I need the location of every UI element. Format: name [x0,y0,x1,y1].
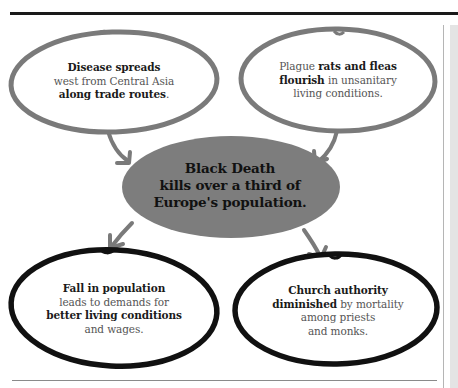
node-fall-line3: better living conditions [46,309,182,321]
center-line3: Europe's population. [130,194,330,211]
node-rats-fleas-line2-tail: in unsanitary [325,74,397,86]
node-church-authority: Church authority diminished by mortality… [256,284,420,338]
node-rats-fleas-line1-bold: rats and fleas [318,60,397,72]
node-fall-line2: leads to demands for [24,296,204,310]
node-disease-spreads-line1: Disease spreads [68,61,161,73]
node-disease-spreads-line3: along trade routes [59,88,166,100]
center-line2: kills over a third of [130,177,330,194]
node-disease-spreads: Disease spreads west from Central Asia a… [34,61,194,102]
node-church-line4: and monks. [256,325,420,339]
node-church-line3: among priests [256,311,420,325]
node-rats-fleas-line3: living conditions. [258,87,418,101]
node-rats-fleas: Plague rats and fleas flourish in unsani… [258,60,418,101]
node-fall-line1: Fall in population [63,282,165,294]
arrow-center-to-church [304,230,320,256]
node-rats-fleas-line2-bold: flourish [279,74,324,86]
node-disease-spreads-line2: west from Central Asia [34,75,194,89]
node-disease-spreads-line3-tail: . [166,88,169,100]
node-church-line1: Church authority [288,284,388,296]
center-node: Black Death kills over a third of Europe… [130,160,330,211]
node-fall-in-population: Fall in population leads to demands for … [24,282,204,336]
node-church-line2-bold: diminished [272,298,337,310]
node-fall-line4: and wages. [24,323,204,337]
node-church-line2-tail: by mortality [337,298,404,310]
node-rats-fleas-line1-pre: Plague [279,60,318,72]
arrow-disease-to-center [108,131,128,161]
center-line1: Black Death [130,160,330,177]
